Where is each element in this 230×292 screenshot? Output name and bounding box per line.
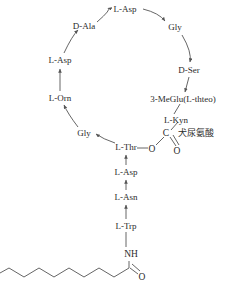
residue-l-asp-top: L-Asp — [114, 4, 137, 14]
kynurenine-chinese-label: 犬尿氨酸 — [178, 128, 214, 138]
bond-carbonyl-double-a — [130, 268, 138, 274]
residue-l-thr: L-Thr — [115, 142, 137, 152]
residue-d-ser: D-Ser — [178, 65, 200, 75]
bond-ester-oxygen-to-carbon — [156, 137, 164, 145]
arrow-dser-to-meglu — [185, 77, 189, 92]
residue-gly-left: Gly — [77, 128, 91, 138]
residue-l-orn: L-Orn — [49, 93, 72, 103]
residue-l-kyn: L-Kyn — [164, 115, 188, 125]
ester-carbon-atom: C — [163, 128, 169, 138]
arrow-lasp-to-gly — [143, 9, 165, 21]
bond-meglu-to-kyn — [174, 104, 180, 114]
arrow-gly-to-lorn — [64, 105, 78, 127]
ester-carbonyl-oxygen-atom: O — [174, 146, 181, 156]
residue-gly-right: Gly — [168, 22, 182, 32]
residue-d-ala: D-Ala — [73, 21, 96, 31]
arrow-dala-to-lasp — [97, 8, 109, 22]
arrow-lasp-to-dala — [64, 30, 78, 53]
residue-l-asp-tail: L-Asp — [115, 167, 138, 177]
residue-l-asn: L-Asn — [115, 192, 138, 202]
arrow-lthr-to-gly — [96, 134, 115, 143]
residue-l-asp-left: L-Asp — [49, 55, 72, 65]
residue-l-trp: L-Trp — [115, 221, 136, 231]
amide-nh-group: NH — [124, 249, 138, 259]
ester-bonds — [137, 104, 180, 148]
lipid-zigzag-chain — [0, 268, 129, 277]
lipid-carbonyl-oxygen-atom: O — [139, 272, 146, 282]
structure-diagram-canvas: L-Asp D-Ala L-Asp L-Orn Gly L-Thr Gly D-… — [0, 0, 230, 292]
arrow-gly-to-dser — [182, 35, 190, 62]
lipid-tail-bonds — [0, 232, 140, 277]
residue-3-meglu: 3-MeGlu(L-thteo) — [150, 94, 215, 104]
ester-oxygen-atom: O — [149, 144, 156, 154]
